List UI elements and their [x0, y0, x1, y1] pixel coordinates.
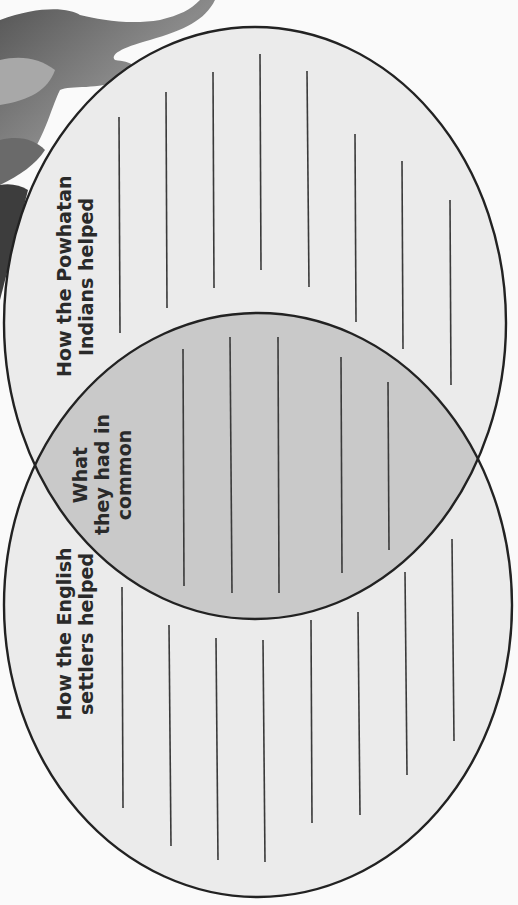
writing-line[interactable]	[402, 161, 403, 349]
label-line: settlers helped	[75, 539, 97, 729]
label-line: Indians helped	[75, 177, 97, 377]
writing-line[interactable]	[119, 117, 120, 333]
label-line: How the Powhatan	[53, 177, 75, 377]
writing-line[interactable]	[388, 382, 389, 550]
writing-line[interactable]	[311, 620, 312, 823]
writing-line[interactable]	[183, 349, 184, 586]
label-line: common	[113, 415, 135, 535]
writing-line[interactable]	[260, 54, 261, 270]
label-line: they had in	[91, 415, 113, 535]
venn-diagram-page: How the Powhatan Indians helped What the…	[0, 0, 518, 905]
writing-line[interactable]	[341, 357, 342, 573]
writing-line[interactable]	[278, 337, 279, 593]
common-region-label: What they had in common	[69, 415, 135, 535]
english-region-label: How the English settlers helped	[53, 539, 97, 729]
writing-line[interactable]	[166, 92, 167, 308]
label-line: How the English	[53, 539, 75, 729]
writing-line[interactable]	[355, 134, 356, 322]
writing-line[interactable]	[213, 72, 214, 288]
powhatan-region-label: How the Powhatan Indians helped	[53, 177, 97, 377]
writing-line[interactable]	[450, 200, 451, 385]
writing-line[interactable]	[122, 587, 123, 808]
label-line: What	[69, 415, 91, 535]
